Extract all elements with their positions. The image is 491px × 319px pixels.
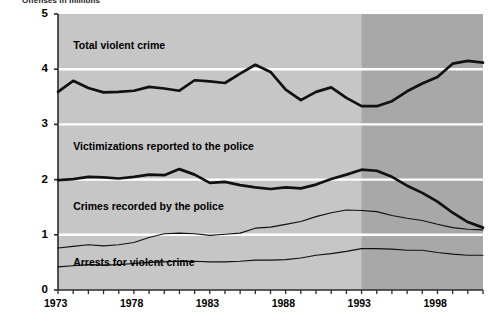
series-inline-label: Total violent crime	[73, 39, 165, 51]
crime-trends-chart: Offenses in millions 012345 197319781983…	[0, 0, 491, 319]
chart-axis-title: Offenses in millions	[22, 0, 100, 5]
series-inline-label: Victimizations reported to the police	[73, 140, 254, 152]
y-tick-label: 1	[30, 229, 48, 240]
series-inline-label: Crimes recorded by the police	[73, 200, 224, 212]
y-tick-label: 3	[30, 118, 48, 129]
x-tick-label: 1983	[196, 298, 219, 309]
series-inline-label: Arrests for violent crime	[73, 256, 194, 268]
y-tick-label: 2	[30, 174, 48, 185]
y-tick-label: 4	[30, 63, 48, 74]
y-tick-label: 0	[30, 284, 48, 295]
x-tick-label: 1978	[120, 298, 143, 309]
x-tick-label: 1973	[44, 298, 67, 309]
y-tick-label: 5	[30, 8, 48, 19]
x-tick-label: 1998	[423, 298, 446, 309]
x-tick-label: 1988	[272, 298, 295, 309]
x-tick-label: 1993	[348, 298, 371, 309]
